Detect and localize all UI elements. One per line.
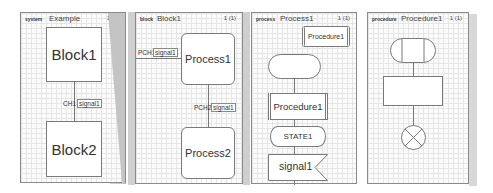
diagram-name-label: Process1	[280, 14, 313, 23]
block-label: Block2	[51, 141, 96, 158]
procedure-reference[interactable]: Procedure1	[302, 26, 350, 47]
procedure-diagram-panel[interactable]: procedure Procedure1 1 (1)	[367, 12, 469, 184]
flow-line	[294, 79, 295, 93]
process-label: Process2	[185, 147, 231, 159]
diagram-name-label: Block1	[157, 14, 181, 23]
flow-line	[294, 147, 295, 154]
channel-name: CH1	[63, 100, 76, 107]
channel-name: PCH2	[194, 104, 211, 111]
page-number: 1 (1)	[450, 15, 462, 21]
procedure-call[interactable]: Procedure1	[268, 93, 328, 120]
procedure-start-symbol[interactable]	[390, 38, 436, 63]
process-process1[interactable]: Process1	[181, 33, 235, 85]
shadow-block-right	[243, 12, 250, 185]
flow-line	[294, 181, 295, 185]
start-symbol[interactable]	[268, 54, 321, 79]
page-number: 1 (1)	[338, 15, 350, 21]
block-diagram-panel[interactable]: block Block1 1 (1) PCH1 signal1 Process1…	[135, 12, 243, 184]
task-symbol[interactable]	[383, 76, 443, 106]
diagram-name-label: Procedure1	[401, 14, 442, 23]
diagram-kind-label: procedure	[372, 16, 396, 22]
diagram-name-label: Example	[49, 14, 80, 23]
page-number: 1 (1)	[224, 15, 236, 21]
wedge-shadow	[108, 13, 126, 183]
procedure-reference-label: Procedure1	[308, 33, 344, 40]
flow-line	[413, 63, 414, 76]
channel-line-pch1[interactable]	[136, 58, 181, 59]
shadow-procedure-right	[469, 14, 477, 186]
flow-line	[413, 106, 414, 125]
channel-signal-list[interactable]: signal1	[211, 103, 236, 112]
diagram-kind-label: system	[25, 16, 42, 22]
block-label: Block1	[51, 46, 96, 63]
block-block1[interactable]: Block1	[46, 27, 102, 82]
input-signal-label: signal1	[279, 160, 312, 172]
procedure-call-label: Procedure1	[273, 101, 322, 112]
process-label: Process1	[185, 53, 231, 65]
shadow-block-left	[128, 12, 135, 185]
channel-signal-list[interactable]: signal1	[77, 99, 102, 108]
state-symbol[interactable]: STATE1	[270, 126, 326, 147]
diagram-kind-label: process	[256, 16, 275, 22]
block-block2[interactable]: Block2	[46, 121, 102, 177]
diagram-kind-label: block	[140, 16, 153, 22]
process-process2[interactable]: Process2	[181, 127, 235, 179]
state-label: STATE1	[283, 132, 312, 141]
stop-symbol-icon[interactable]	[401, 125, 426, 150]
channel-signal-list[interactable]: signal1	[153, 48, 178, 57]
process-diagram-panel[interactable]: process Process1 1 (1) Procedure1 Proced…	[251, 12, 357, 184]
